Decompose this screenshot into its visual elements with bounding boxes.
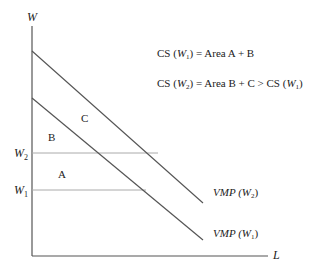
x-axis-label: L [272,248,280,262]
area-a-label: A [58,168,66,180]
equation-cs-w1: CS (W1) = Area A + B [157,47,254,61]
vmp-w2-label: VMP (W2) [213,186,258,200]
area-b-label: B [48,131,55,143]
consumer-surplus-diagram: W L W2 W1 C B A VMP (W2) VMP (W1) CS (W1… [0,0,313,275]
y-axis-label: W [27,10,38,24]
vmp-w1-label: VMP (W1) [213,227,258,241]
area-c-label: C [81,112,88,124]
vmp-w2-curve [32,51,203,203]
equation-cs-w2: CS (W2) = Area B + C > CS (W1) [157,77,303,91]
w2-label: W2 [14,146,28,162]
w1-label: W1 [14,183,28,199]
